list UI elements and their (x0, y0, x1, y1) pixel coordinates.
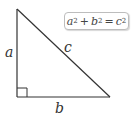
exponent-c: 2 (122, 17, 126, 25)
formula-term-b: b (91, 15, 98, 28)
exponent-b: 2 (98, 17, 102, 25)
right-angle-marker (17, 88, 27, 97)
pythagorean-formula: a2 + b2 = c2 (64, 12, 129, 30)
equals-sign: = (104, 15, 113, 28)
plus-sign: + (80, 15, 89, 28)
label-a: a (5, 45, 13, 59)
label-c: c (64, 40, 72, 54)
exponent-a: 2 (73, 17, 77, 25)
label-b: b (55, 101, 64, 114)
